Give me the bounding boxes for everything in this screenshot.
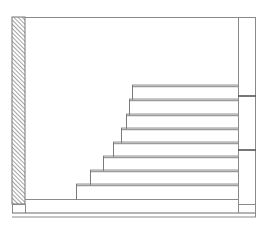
stair-step xyxy=(126,114,238,129)
hatched-wall xyxy=(12,17,25,204)
frame xyxy=(12,18,256,218)
wall-section xyxy=(12,17,25,204)
stair-step xyxy=(103,156,238,171)
stair-step xyxy=(121,128,238,143)
stair-step xyxy=(132,85,238,100)
staircase-drawing xyxy=(0,0,265,230)
stair-steps xyxy=(76,85,238,200)
right-column xyxy=(238,17,256,217)
stair-step xyxy=(129,99,238,115)
stair-step xyxy=(76,184,238,200)
stair-step xyxy=(90,170,238,185)
stair-step xyxy=(113,142,238,157)
